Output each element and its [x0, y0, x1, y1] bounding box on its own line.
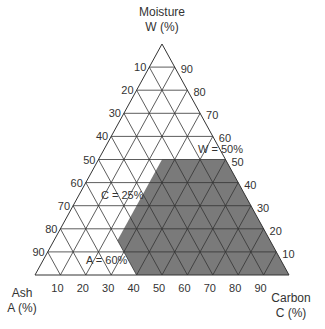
- bottom-tick-label: 20: [77, 282, 89, 294]
- bottom-tick-label: 50: [153, 282, 165, 294]
- bottom-tick-label: 30: [102, 282, 114, 294]
- right-tick-label: 80: [193, 86, 205, 98]
- left-tick-label: 50: [83, 154, 95, 166]
- left-tick-label: 60: [71, 177, 83, 189]
- right-tick-label: 90: [181, 63, 193, 75]
- right-tick-label: 10: [282, 248, 294, 260]
- annotation-w-50: W = 50%: [198, 143, 243, 155]
- bottom-tick-label: 90: [254, 282, 266, 294]
- left-tick-label: 20: [121, 84, 133, 96]
- left-tick-label: 90: [32, 246, 44, 258]
- right-tick-label: 30: [257, 202, 269, 214]
- right-tick-label: 40: [244, 179, 256, 191]
- ternary-diagram: 1020304050607080909080706050403020101020…: [0, 0, 325, 329]
- left-tick-label: 80: [45, 223, 57, 235]
- grid-line: [48, 252, 61, 275]
- ash-axis-unit: A (%): [7, 301, 36, 315]
- right-tick-label: 70: [206, 109, 218, 121]
- annotation-c-25: C = 25%: [101, 189, 144, 201]
- left-tick-label: 10: [134, 61, 146, 73]
- right-tick-label: 50: [232, 156, 244, 168]
- annotation-a-60: A = 60%: [86, 254, 128, 266]
- left-tick-label: 70: [58, 200, 70, 212]
- bottom-tick-label: 10: [51, 282, 63, 294]
- bottom-tick-label: 70: [204, 282, 216, 294]
- moisture-axis-unit: W (%): [145, 20, 178, 34]
- bottom-tick-label: 80: [229, 282, 241, 294]
- ash-axis-title: Ash: [12, 286, 33, 300]
- bottom-tick-label: 40: [127, 282, 139, 294]
- carbon-axis-unit: C (%): [276, 306, 307, 320]
- right-tick-label: 20: [270, 225, 282, 237]
- left-tick-label: 30: [109, 107, 121, 119]
- carbon-axis-title: Carbon: [271, 291, 310, 305]
- bottom-tick-label: 60: [178, 282, 190, 294]
- left-tick-label: 40: [96, 130, 108, 142]
- moisture-axis-title: Moisture: [139, 5, 185, 19]
